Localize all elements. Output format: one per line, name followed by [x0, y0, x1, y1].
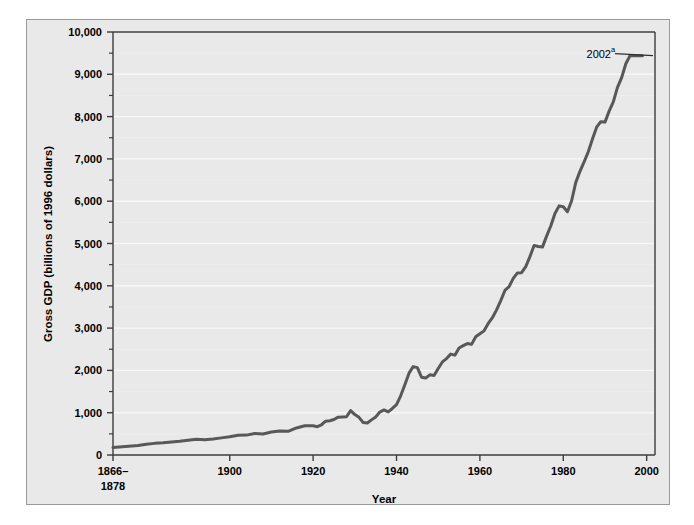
figure-container: 01,0002,0003,0004,0005,0006,0007,0008,00…: [0, 0, 694, 525]
chart-panel: [26, 19, 670, 505]
